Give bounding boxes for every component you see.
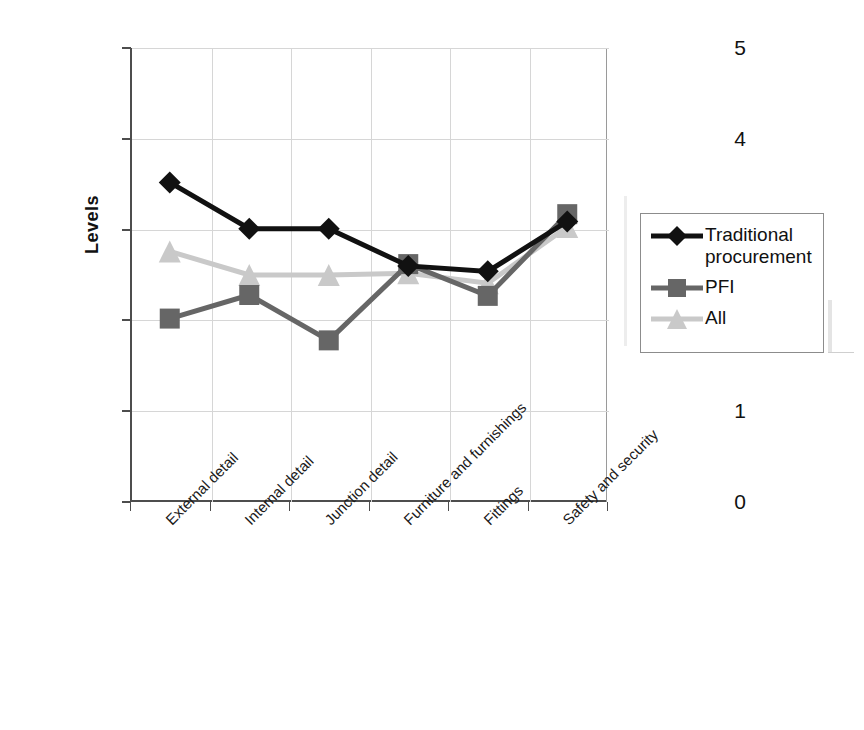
y-axis-title: Levels: [82, 155, 103, 295]
gridline: [371, 48, 372, 502]
plot-area: [130, 48, 607, 502]
scan-artifact: [828, 300, 832, 352]
y-tick-mark: [122, 138, 131, 140]
x-tick-mark: [448, 502, 449, 511]
legend-marker-diamond-icon: [649, 225, 705, 247]
legend-label: All: [705, 307, 726, 329]
chart-figure: 543210 Levels External detailInternal de…: [0, 0, 864, 730]
y-tick-label: 4: [718, 128, 746, 149]
gridline: [450, 48, 451, 502]
x-tick-mark: [607, 502, 608, 511]
y-tick-mark: [122, 229, 131, 231]
gridline: [291, 48, 292, 502]
x-tick-mark: [130, 502, 131, 511]
y-tick-label: 0: [718, 491, 746, 512]
y-tick-label: 5: [718, 37, 746, 58]
legend-label: Traditional procurement: [705, 224, 817, 268]
gridline: [530, 48, 531, 502]
legend-item-pfi[interactable]: PFI: [649, 276, 823, 299]
legend-box: Traditional procurementPFIAll: [640, 213, 824, 353]
x-tick-mark: [210, 502, 211, 511]
scan-artifact: [624, 196, 627, 346]
scan-artifact: [828, 352, 854, 353]
x-tick-mark: [369, 502, 370, 511]
x-tick-mark: [289, 502, 290, 511]
legend-marker-square-icon: [649, 277, 705, 299]
legend-item-all[interactable]: All: [649, 307, 823, 330]
y-tick-mark: [122, 319, 131, 321]
legend-marker-triangle-icon: [649, 308, 705, 330]
legend-label: PFI: [705, 276, 735, 298]
y-tick-label: 1: [718, 400, 746, 421]
plot-right-border: [606, 48, 607, 502]
gridline: [212, 48, 213, 502]
y-tick-mark: [122, 410, 131, 412]
legend-item-traditional-procurement[interactable]: Traditional procurement: [649, 224, 823, 268]
y-tick-mark: [122, 47, 131, 49]
x-tick-mark: [528, 502, 529, 511]
